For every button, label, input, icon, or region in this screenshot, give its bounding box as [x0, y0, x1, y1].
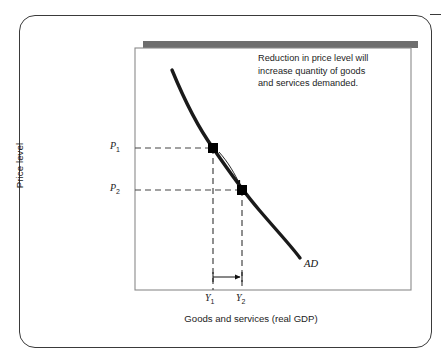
tick-label-p2-sub: 2	[116, 188, 120, 195]
tick-label-p1: P1	[110, 140, 120, 153]
ad-curve-figure: Reduction in price level will increase q…	[0, 0, 441, 364]
point-marker-2	[237, 185, 247, 195]
plot-shadow-bar	[143, 41, 418, 48]
figure-page: Reduction in price level will increase q…	[0, 0, 441, 364]
callout-line-2: increase quantity of goods	[258, 65, 406, 78]
point-marker-1	[208, 143, 218, 153]
callout-annotation: Reduction in price level will increase q…	[258, 52, 406, 90]
y-axis-title: Price level	[14, 121, 25, 211]
tick-label-y1: Y1	[205, 292, 214, 305]
tick-label-y2: Y2	[236, 292, 245, 305]
tick-label-y2-sub: 2	[242, 298, 246, 305]
callout-line-1: Reduction in price level will	[258, 52, 406, 65]
tick-label-p1-sub: 1	[116, 146, 120, 153]
ad-curve-label: AD	[304, 258, 318, 269]
plot-shadow-right	[411, 48, 418, 291]
tick-label-p2: P2	[110, 182, 120, 195]
tick-label-y1-sub: 1	[211, 298, 215, 305]
x-axis-title: Goods and services (real GDP)	[136, 313, 366, 324]
callout-line-3: and services demanded.	[258, 77, 406, 90]
